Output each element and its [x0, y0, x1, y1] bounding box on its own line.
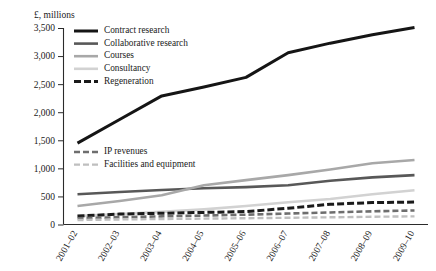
- x-axis-tick-label: 2002–03: [96, 229, 121, 263]
- y-axis-tick-label: 1,000: [34, 164, 56, 174]
- legend-label: Facilities and equipment: [104, 159, 196, 169]
- chart-container: £, millions 05001,0001,5002,0002,5003,00…: [0, 0, 436, 271]
- x-axis-tick-label: 2007–08: [307, 229, 332, 263]
- y-axis-tick-label: 500: [41, 192, 56, 202]
- legend-label: Consultancy: [104, 63, 151, 73]
- line-chart: £, millions 05001,0001,5002,0002,5003,00…: [0, 0, 436, 271]
- legend-label: Courses: [104, 50, 134, 60]
- x-axis-tick-label: 2004–05: [180, 229, 205, 263]
- y-axis-tick-label: 3,000: [34, 51, 56, 61]
- x-axis-tick-labels: 2001–022002–032003–042004–052005–062006–…: [54, 229, 416, 263]
- legend-label: Contract research: [104, 25, 170, 35]
- y-axis-tick-label: 1,500: [34, 136, 56, 146]
- legend-label: IP revenues: [104, 146, 148, 156]
- y-axis-tick-label: 2,500: [34, 80, 56, 90]
- series-line: [78, 175, 415, 194]
- y-axis-tick-labels: 05001,0001,5002,0002,5003,0003,500: [34, 23, 56, 230]
- y-axis-tick-marks: [58, 29, 64, 226]
- y-axis-tick-label: 0: [50, 220, 55, 230]
- legend-label: Collaborative research: [104, 38, 188, 48]
- x-axis-tick-label: 2008–09: [349, 229, 374, 263]
- x-axis-tick-label: 2001–02: [54, 229, 79, 263]
- legend-label: Regeneration: [104, 76, 154, 86]
- x-axis-tick-label: 2003–04: [138, 229, 163, 263]
- y-axis-unit-label: £, millions: [34, 10, 75, 20]
- y-axis-tick-label: 2,000: [34, 108, 56, 118]
- y-axis-tick-label: 3,500: [34, 23, 56, 33]
- x-axis-tick-label: 2005–06: [222, 229, 247, 263]
- legend-secondary: IP revenuesFacilities and equipment: [74, 146, 196, 169]
- x-axis-tick-label: 2006–07: [265, 229, 290, 263]
- legend-primary: Contract researchCollaborative researchC…: [74, 25, 188, 85]
- x-axis-tick-label: 2009–10: [391, 229, 416, 263]
- series-line: [78, 202, 415, 216]
